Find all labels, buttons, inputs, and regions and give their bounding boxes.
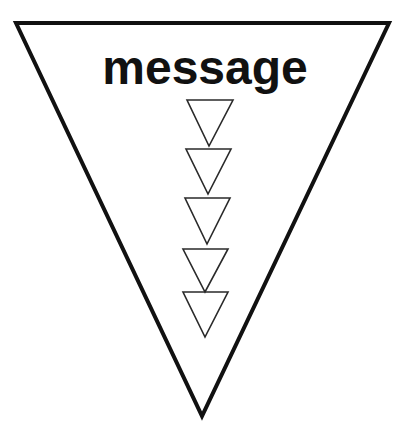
message-funnel-diagram: message (0, 0, 406, 432)
message-label: message (102, 41, 307, 94)
